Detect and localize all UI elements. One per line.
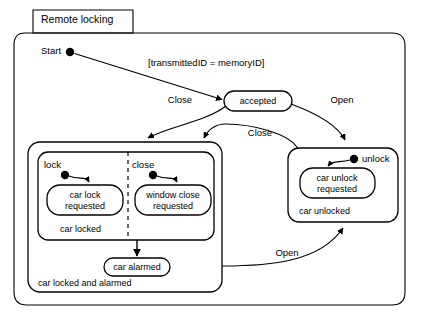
state-label-car-lock-requested-line1: car lock (69, 190, 100, 200)
transition-label-close-top: Close (168, 95, 192, 106)
state-label-car-unlock-requested-line2: requested (317, 184, 357, 194)
initial-pseudostate-dot-lock (61, 171, 69, 179)
state-label-window-close-requested-line2: requested (153, 201, 193, 211)
frame-title-label: Remote locking (41, 14, 113, 26)
transition-accepted-to-locked (148, 106, 226, 138)
state-label-car-alarmed: car alarmed (113, 262, 161, 272)
initial-state-label: Start (41, 46, 61, 57)
pseudostate-label-unlock: unlock (362, 154, 389, 165)
initial-pseudostate-dot-unlock (350, 155, 358, 163)
pseudostate-label-close: close (132, 160, 154, 171)
initial-pseudostate-dot-close (149, 171, 157, 179)
state-diagram-canvas: Remote locking Start [transmittedID = me… (0, 0, 426, 320)
composite-state-label-car-locked-and-alarmed: car locked and alarmed (38, 278, 132, 288)
initial-pseudostate-dot (66, 48, 74, 56)
composite-state-label-car-unlocked: car unlocked (299, 206, 350, 216)
state-label-window-close-requested-line1: window close (146, 190, 200, 200)
transition-accepted-to-unlocked (291, 104, 345, 140)
guard-condition-label: [transmittedID = memoryID] (148, 58, 264, 69)
composite-state-label-car-locked: car locked (60, 224, 101, 234)
transition-label-open-top: Open (330, 95, 353, 106)
state-label-car-unlock-requested-line1: car unlock (316, 173, 357, 183)
pseudostate-label-lock: lock (44, 160, 61, 171)
transition-label-open-bottom: Open (275, 248, 298, 259)
state-label-car-lock-requested-line2: requested (65, 201, 105, 211)
state-label-accepted: accepted (240, 96, 277, 106)
transition-label-close-mid: Close (248, 128, 272, 139)
